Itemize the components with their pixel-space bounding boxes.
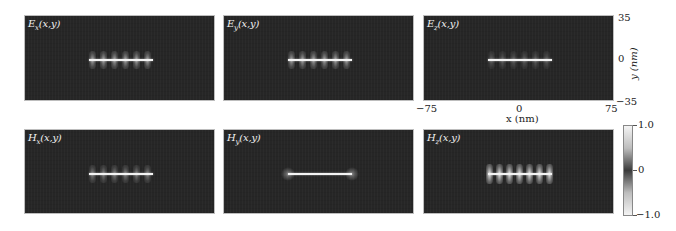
colorbar-tick-mid [633, 170, 637, 171]
panel-ex: Ex(x,y) [24, 15, 215, 101]
panel-label-ey: Ey(x,y) [227, 18, 259, 32]
panel-hx: Hx(x,y) [24, 129, 215, 214]
colorbar-label-top: 1.0 [638, 119, 654, 130]
panel-ez: Ez(x,y) [423, 15, 614, 101]
colorbar-label-mid: 0 [638, 164, 644, 175]
x-axis-label: x (nm) [506, 113, 539, 124]
nanowire [288, 59, 352, 61]
x-tick-right: 75 [605, 103, 618, 114]
nanowire [488, 173, 552, 175]
y-tick-top: 35 [618, 12, 631, 23]
panel-label-ez: Ez(x,y) [427, 18, 459, 32]
panel-ey: Ey(x,y) [223, 15, 414, 101]
y-tick-bottom: −35 [616, 96, 637, 107]
colorbar-tick-top [633, 125, 637, 126]
nanowire [488, 59, 552, 61]
panel-label-hz: Hz(x,y) [427, 132, 460, 146]
nanowire [288, 173, 352, 175]
colorbar [623, 125, 633, 216]
panel-label-hx: Hx(x,y) [28, 132, 62, 146]
panel-label-hy: Hy(x,y) [227, 132, 261, 146]
panel-hy: Hy(x,y) [223, 129, 414, 214]
x-tick-left: −75 [416, 103, 437, 114]
nanowire [89, 59, 153, 61]
panel-label-ex: Ex(x,y) [28, 18, 60, 32]
nanowire [89, 173, 153, 175]
y-axis-label: y (nm) [628, 47, 639, 80]
y-tick-mid: 0 [618, 53, 624, 64]
colorbar-label-bottom: −1.0 [636, 209, 660, 220]
panel-hz: Hz(x,y) [423, 129, 614, 214]
